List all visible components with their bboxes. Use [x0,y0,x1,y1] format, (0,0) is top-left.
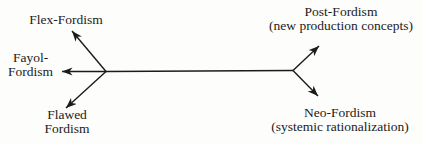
fordism-diagram: Flex-Fordism Fayol- Fordism Flawed Fordi… [0,0,423,144]
label-fayol-line2: Fordism [8,64,53,79]
label-fayol-fordism: Fayol- Fordism [0,51,61,79]
label-post-title: Post-Fordism [305,4,378,19]
label-post-fordism: Post-Fordism (new production concepts) [266,5,416,33]
arrow-neo-fordism [293,71,318,97]
label-flawed-line1: Flawed [47,107,87,122]
label-flawed-fordism: Flawed Fordism [37,108,97,136]
label-flawed-line2: Fordism [44,121,89,136]
label-fayol-line1: Fayol- [13,50,48,65]
label-neo-subtitle: (systemic rationalization) [271,119,409,134]
label-neo-title: Neo-Fordism [304,105,376,120]
label-post-subtitle: (new production concepts) [269,18,413,33]
trunk-line [106,71,293,72]
arrow-flawed-fordism [66,72,106,109]
label-neo-fordism: Neo-Fordism (systemic rationalization) [265,106,415,134]
arrow-post-fordism [293,46,319,71]
label-flex-fordism: Flex-Fordism [24,13,108,27]
arrow-flex-fordism [72,31,106,72]
